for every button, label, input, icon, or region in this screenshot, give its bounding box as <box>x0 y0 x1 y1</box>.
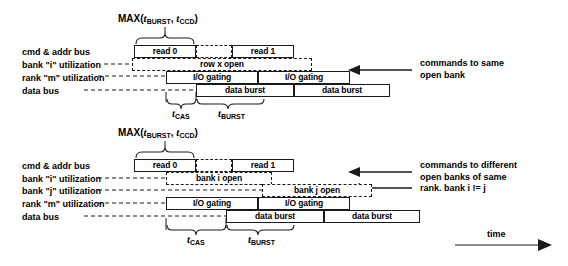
box-data-burst-2-top: data burst <box>294 84 390 97</box>
row-label-cmd-addr-bus-bottom: cmd & addr bus <box>22 161 90 172</box>
max-fn-bottom: MAX( <box>118 127 144 138</box>
box-data-burst-2-bottom: data burst <box>324 210 420 223</box>
measure-tcas-sub-top: CAS <box>175 113 190 120</box>
annotation-top-line1: commands to same <box>420 58 504 70</box>
measure-tburst-sub-bottom: BURST <box>251 239 275 246</box>
time-axis-label: time <box>487 229 506 239</box>
max-label-top: MAX(tBURST, tCCD) <box>118 12 198 24</box>
box-gap-bottom <box>196 159 232 172</box>
row-label-data-bus-bottom: data bus <box>22 212 59 223</box>
brace-max-bottom <box>136 147 194 158</box>
annotation-arrow-head-b1 <box>348 167 360 177</box>
annotation-top-line2: open bank <box>420 70 504 82</box>
row-label-cmd-addr-bus-top: cmd & addr bus <box>22 47 90 58</box>
measure-tburst-bottom: tBURST <box>248 234 275 245</box>
max-fn-top: MAX( <box>118 13 144 24</box>
max-sub2-bottom: CCD <box>179 132 194 139</box>
box-read0-bottom: read 0 <box>134 159 196 172</box>
measure-tcas-top: tCAS <box>172 108 190 119</box>
measure-tcas-sub-bottom: CAS <box>190 239 205 246</box>
measure-tcas-bottom: tCAS <box>187 234 205 245</box>
box-read0-top: read 0 <box>134 45 196 58</box>
annotation-bottom-line2: open banks of same <box>420 172 517 184</box>
measure-tburst-top: tBURST <box>218 108 245 119</box>
annotation-bottom: commands to different open banks of same… <box>420 160 517 195</box>
max-close-top: ) <box>195 13 198 24</box>
diagram-vector-layer <box>0 0 568 266</box>
row-label-rank-m-top: rank "m" utilization <box>22 73 105 84</box>
row-label-bank-i-bottom: bank "i" utilization <box>22 174 101 185</box>
max-sub1-top: BURST <box>147 18 171 25</box>
measure-tburst-sub-top: BURST <box>221 113 245 120</box>
annotation-bottom-line3: rank. bank i != j <box>420 183 517 195</box>
box-data-burst-1-bottom: data burst <box>226 210 324 223</box>
annotation-top: commands to same open bank <box>420 58 504 81</box>
box-row-x-open-top: row x open <box>132 58 312 71</box>
box-io-gating-2-bottom: I/O gating <box>258 197 350 210</box>
box-io-gating-1-bottom: I/O gating <box>166 197 258 210</box>
box-read1-bottom: read 1 <box>232 159 294 172</box>
box-bank-i-open-bottom: bank i open <box>166 172 272 185</box>
timing-diagram-canvas: MAX(tBURST, tCCD) cmd & addr bus bank "i… <box>0 0 568 266</box>
max-label-bottom: MAX(tBURST, tCCD) <box>118 126 198 138</box>
time-axis-arrow-head <box>538 239 552 251</box>
box-io-gating-1-top: I/O gating <box>166 71 258 84</box>
max-sub2-top: CCD <box>179 18 194 25</box>
row-label-data-bus-top: data bus <box>22 86 59 97</box>
box-io-gating-2-top: I/O gating <box>258 71 350 84</box>
annotation-bottom-line1: commands to different <box>420 160 517 172</box>
box-data-burst-1-top: data burst <box>196 84 294 97</box>
row-label-bank-i-top: bank "i" utilization <box>22 60 101 71</box>
row-label-bank-j-bottom: bank "j" utilization <box>22 186 101 197</box>
max-sub1-bottom: BURST <box>147 132 171 139</box>
brace-max-top <box>136 33 194 44</box>
max-close-bottom: ) <box>195 127 198 138</box>
box-gap-top <box>196 45 232 58</box>
box-bank-j-open-bottom: bank j open <box>262 184 372 197</box>
row-label-rank-m-bottom: rank "m" utilization <box>22 199 105 210</box>
box-read1-top: read 1 <box>232 45 294 58</box>
